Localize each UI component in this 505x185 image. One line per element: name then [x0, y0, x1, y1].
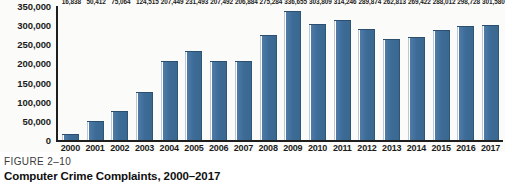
bar-value-label: 207,492 — [210, 0, 233, 5]
bar: 262,813 — [383, 39, 400, 140]
x-axis-tick-label: 2013 — [379, 143, 404, 156]
bar-slot: 262,813 — [379, 6, 404, 140]
bar-slot: 50,412 — [83, 6, 108, 140]
bar-slot: 124,515 — [132, 6, 157, 140]
bar-slot: 314,246 — [330, 6, 355, 140]
figure-caption: FIGURE 2–10 Computer Crime Complaints, 2… — [4, 156, 502, 183]
bar-slot: 298,728 — [454, 6, 479, 140]
x-axis-tick-label: 2011 — [330, 143, 355, 156]
bar-value-label: 303,809 — [309, 0, 332, 5]
x-axis-tick-label: 2014 — [404, 143, 429, 156]
bar-value-label: 207,449 — [161, 0, 184, 5]
bar-slot: 75,064 — [107, 6, 132, 140]
bar-slot: 269,422 — [404, 6, 429, 140]
bar-value-label: 16,838 — [62, 0, 81, 5]
bar-value-label: 269,422 — [408, 0, 431, 5]
bar: 301,580 — [482, 25, 499, 140]
figure-number: FIGURE 2–10 — [4, 156, 502, 168]
bar: 303,809 — [309, 24, 326, 140]
x-axis-tick-label: 2009 — [280, 143, 305, 156]
bar-value-label: 75,064 — [111, 0, 130, 5]
x-axis-tick-label: 2004 — [157, 143, 182, 156]
bar-slot: 275,284 — [256, 6, 281, 140]
bar-slot: 231,493 — [182, 6, 207, 140]
bar: 50,412 — [87, 121, 104, 140]
x-axis-line — [56, 140, 503, 142]
y-axis-tick-label: 150,000 — [17, 77, 51, 88]
x-axis-tick-label: 2010 — [305, 143, 330, 156]
bar-value-label: 301,580 — [482, 0, 505, 5]
x-axis-tick-label: 2016 — [454, 143, 479, 156]
y-axis-tick-label: 50,000 — [23, 115, 51, 126]
bar-slot: 207,492 — [206, 6, 231, 140]
bar-value-label: 206,884 — [235, 0, 258, 5]
x-axis-tick-label: 2000 — [58, 143, 83, 156]
y-axis-tick-label: 250,000 — [17, 39, 51, 50]
figure-container: 050,000100,000150,000200,000250,000300,0… — [0, 0, 505, 185]
bar-series: 16,83850,41275,064124,515207,449231,4932… — [58, 6, 503, 140]
bar: 275,284 — [260, 35, 277, 140]
bar-value-label: 314,246 — [334, 0, 357, 5]
bar: 231,493 — [185, 51, 202, 140]
bar: 298,728 — [457, 26, 474, 140]
bar-slot: 303,809 — [305, 6, 330, 140]
y-axis-tick-label: 300,000 — [17, 20, 51, 31]
x-axis-tick-label: 2017 — [478, 143, 503, 156]
chart-plot-area: 050,000100,000150,000200,000250,000300,0… — [0, 0, 505, 152]
y-axis-tick-label: 350,000 — [17, 1, 51, 12]
x-axis-tick-label: 2005 — [182, 143, 207, 156]
figure-title: Computer Crime Complaints, 2000–2017 — [4, 169, 502, 183]
x-axis-tick-label: 2001 — [83, 143, 108, 156]
bar-slot: 206,884 — [231, 6, 256, 140]
bar-value-label: 289,874 — [358, 0, 381, 5]
bar: 289,874 — [358, 29, 375, 140]
bar: 288,012 — [433, 30, 450, 140]
bar: 206,884 — [235, 61, 252, 140]
x-axis-tick-label: 2003 — [132, 143, 157, 156]
bar-slot: 288,012 — [429, 6, 454, 140]
bar: 16,838 — [62, 134, 79, 140]
bar: 207,492 — [210, 61, 227, 140]
bar: 314,246 — [334, 20, 351, 140]
bar: 269,422 — [408, 37, 425, 140]
bar-value-label: 336,655 — [284, 0, 307, 5]
x-axis-tick-label: 2007 — [231, 143, 256, 156]
x-axis: 2000200120022003200420052006200720082009… — [58, 143, 503, 156]
x-axis-tick-label: 2015 — [429, 143, 454, 156]
bar: 336,655 — [284, 11, 301, 140]
bar-value-label: 298,728 — [457, 0, 480, 5]
bar: 75,064 — [111, 111, 128, 140]
y-axis-tick-label: 0 — [46, 135, 51, 146]
bar-value-label: 275,284 — [260, 0, 283, 5]
bar: 124,515 — [136, 92, 153, 140]
y-axis-tick-label: 200,000 — [17, 58, 51, 69]
bar-value-label: 288,012 — [433, 0, 456, 5]
bar-value-label: 124,515 — [136, 0, 159, 5]
y-axis-tick-label: 100,000 — [17, 96, 51, 107]
bar-value-label: 50,412 — [87, 0, 106, 5]
x-axis-tick-label: 2012 — [355, 143, 380, 156]
bar-slot: 207,449 — [157, 6, 182, 140]
bar-value-label: 231,493 — [185, 0, 208, 5]
y-axis: 050,000100,000150,000200,000250,000300,0… — [0, 6, 54, 147]
x-axis-tick-label: 2008 — [256, 143, 281, 156]
x-axis-tick-label: 2002 — [107, 143, 132, 156]
bar-slot: 336,655 — [280, 6, 305, 140]
bar-slot: 16,838 — [58, 6, 83, 140]
bar: 207,449 — [161, 61, 178, 140]
x-axis-tick-label: 2006 — [206, 143, 231, 156]
bar-value-label: 262,813 — [383, 0, 406, 5]
bar-slot: 301,580 — [478, 6, 503, 140]
bar-slot: 289,874 — [355, 6, 380, 140]
